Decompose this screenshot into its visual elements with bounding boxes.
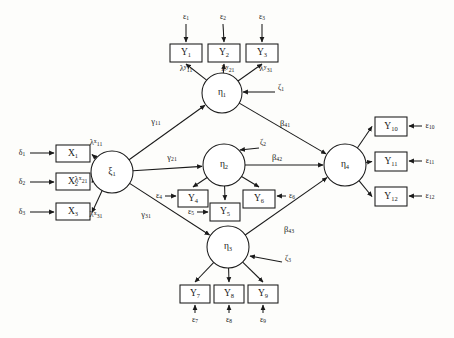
eta-4-label: η4 — [341, 160, 349, 170]
epsilon-label-8: ε8 — [226, 316, 232, 325]
gamma-31-label: γ31 — [141, 210, 151, 220]
beta-43-label: β43 — [284, 225, 294, 235]
y-indicator-label-2: Y2 — [219, 48, 229, 58]
lambda-x-label-3: λx31 — [90, 210, 103, 220]
lambda-y-arrow-4 — [193, 178, 207, 187]
y-indicator-label-7: Y7 — [190, 289, 200, 299]
y-indicator-label-5: Y5 — [220, 207, 230, 217]
x-indicator-label-3: X3 — [68, 206, 78, 216]
beta-41-label: β41 — [280, 119, 290, 129]
zeta-3-arrow — [250, 256, 282, 262]
y-indicator-label-9: Y9 — [258, 289, 268, 299]
lambda-y-arrow-3 — [238, 64, 262, 81]
delta-label-2: δ2 — [19, 178, 26, 187]
epsilon-label-6: ε6 — [289, 192, 295, 201]
sem-path-diagram: X1δ1λx11X2δ2λx21X3δ3λx31ξ1Y1ε1λy11Y2ε2λy… — [0, 0, 454, 338]
epsilon-label-7: ε7 — [192, 316, 198, 325]
epsilon-label-5: ε5 — [188, 208, 194, 217]
y-indicator-label-4: Y4 — [188, 193, 198, 203]
eta-2-label: η2 — [220, 160, 228, 170]
delta-label-1: δ1 — [19, 149, 26, 158]
zeta-2-label: ζ2 — [260, 139, 266, 148]
lambda-x-label-1: λx11 — [90, 138, 103, 148]
y-indicator-label-11: Y11 — [384, 156, 397, 166]
zeta-1-label: ζ1 — [278, 84, 284, 93]
y-indicator-label-10: Y10 — [384, 121, 397, 131]
epsilon-label-11: ε11 — [426, 157, 435, 166]
epsilon-arrow-2 — [223, 24, 224, 42]
y-indicator-label-1: Y1 — [181, 48, 191, 58]
y-indicator-label-12: Y12 — [384, 191, 397, 201]
lambda-y-arrow-10 — [357, 127, 372, 149]
epsilon-label-1: ε1 — [183, 13, 189, 22]
gamma-21-label: γ21 — [167, 153, 177, 163]
y-indicator-label-3: Y3 — [257, 48, 267, 58]
lambda-y-arrow-12 — [359, 181, 372, 197]
lambda-x-label-2: λx21 — [75, 175, 88, 185]
epsilon-label-2: ε2 — [220, 13, 226, 22]
lambda-y-arrow-9 — [243, 262, 263, 282]
zeta-2-arrow — [240, 148, 259, 150]
beta-42-label: β42 — [272, 153, 282, 163]
epsilon-label-12: ε12 — [426, 192, 435, 201]
epsilon-label-3: ε3 — [259, 13, 265, 22]
lambda-y-label-1: λy11 — [180, 64, 193, 74]
eta-3-label: η3 — [224, 242, 232, 252]
zeta-3-label: ζ3 — [285, 255, 291, 264]
epsilon-label-10: ε10 — [426, 122, 435, 131]
eta-1-label: η1 — [218, 88, 226, 98]
lambda-x-arrow-1 — [92, 155, 96, 159]
gamma-11-label: γ11 — [151, 117, 160, 127]
epsilon-label-9: ε9 — [260, 316, 266, 325]
gamma-21-arrow — [133, 166, 202, 170]
xi-1-label: ξ1 — [108, 167, 115, 177]
lambda-y-label-3: λy31 — [260, 64, 273, 74]
lambda-y-label-2: λy21 — [222, 64, 235, 74]
lambda-y-arrow-11 — [366, 162, 372, 163]
y-indicator-label-6: Y6 — [254, 194, 264, 204]
y-indicator-label-8: Y8 — [224, 289, 234, 299]
delta-label-3: δ3 — [19, 208, 26, 217]
lambda-y-arrow-6 — [242, 177, 259, 187]
epsilon-label-4: ε4 — [156, 192, 162, 201]
x-indicator-label-1: X1 — [68, 148, 78, 158]
lambda-y-arrow-7 — [195, 262, 214, 282]
